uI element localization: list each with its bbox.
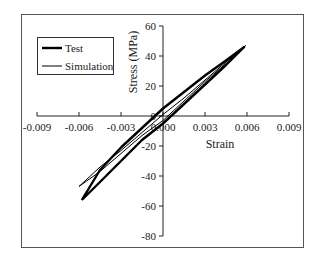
legend-label-simulation: Simulation [65, 60, 114, 72]
legend: Test Simulation [38, 38, 114, 75]
y-axis-label: Stress (MPa) [126, 31, 140, 93]
x-tick-label: -0.006 [65, 121, 94, 133]
y-tick-label: 40 [145, 50, 157, 62]
y-tick-label: 20 [145, 80, 157, 92]
y-tick-label: 60 [145, 20, 157, 32]
y-tick-label: -60 [141, 200, 156, 212]
y-tick-label: -80 [141, 230, 156, 242]
y-tick-label: -40 [141, 170, 156, 182]
x-tick-label: -0.003 [107, 121, 136, 133]
legend-label-test: Test [65, 42, 83, 54]
x-tick-label: 0.009 [277, 121, 302, 133]
x-axis-label: Strain [206, 137, 235, 151]
stress-strain-chart: -0.009-0.006-0.0030.0000.0030.0060.00960… [0, 0, 318, 262]
x-tick-label: 0.003 [193, 121, 218, 133]
x-tick-label: -0.009 [23, 121, 52, 133]
y-tick-label: -20 [141, 140, 156, 152]
x-tick-label: 0.006 [235, 121, 260, 133]
